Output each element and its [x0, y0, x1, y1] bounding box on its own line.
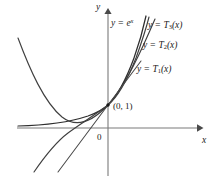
- label-origin: 0: [97, 133, 102, 142]
- point-marker-0-1: [106, 103, 109, 106]
- curve-t1: [58, 61, 141, 172]
- label-curve-t3: y = T3(x): [148, 21, 182, 31]
- label-point-0-1: (0, 1): [113, 102, 133, 111]
- curve-t3: [34, 17, 149, 172]
- label-curve-t1: y = T1(x): [137, 65, 171, 75]
- label-curve-ex: y = ex: [111, 18, 133, 29]
- label-axis-y: y: [96, 3, 100, 13]
- x-axis: [17, 124, 204, 132]
- label-curve-t2: y = T2(x): [143, 41, 177, 51]
- label-axis-x: x: [202, 136, 206, 146]
- plot-area: [0, 0, 217, 181]
- y-axis: [104, 8, 111, 176]
- curve-t2: [18, 19, 155, 123]
- taylor-polynomial-figure: y = ex y = T3(x) y = T2(x) y = T1(x) (0,…: [0, 0, 217, 181]
